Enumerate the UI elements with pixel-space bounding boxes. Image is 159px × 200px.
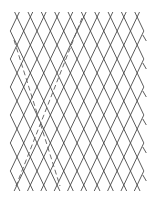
edge-tick-mark [143,35,147,41]
lattice-diagonal-down-left [10,12,32,59]
lattice-diagonal-down-left [81,59,144,191]
lattice-diagonal-down-left [108,115,144,191]
edge-tick-mark [143,91,147,97]
lattice-diagonal-down-right [10,143,33,191]
lattice-lines [10,12,144,191]
lattice-diagonal-down-right [108,12,144,87]
lattice-diagonal-down-left [10,12,72,143]
edge-tick-mark [143,175,147,181]
lattice-diagonal-down-left [10,12,19,31]
edge-tick-mark [143,119,147,125]
lattice-diagonal-down-right [121,12,143,59]
dashed-guide-line [14,40,60,186]
edge-tick-mark [143,147,147,153]
lattice-diagonal-down-left [10,12,46,87]
lattice-diagonal-down-left [121,143,144,191]
lattice-diagonal-down-right [81,12,143,143]
edge-tick-mark [143,63,147,69]
right-edge-ticks [143,35,147,181]
diamond-lattice-diagram [0,0,159,200]
lattice-diagonal-down-right [135,12,144,31]
